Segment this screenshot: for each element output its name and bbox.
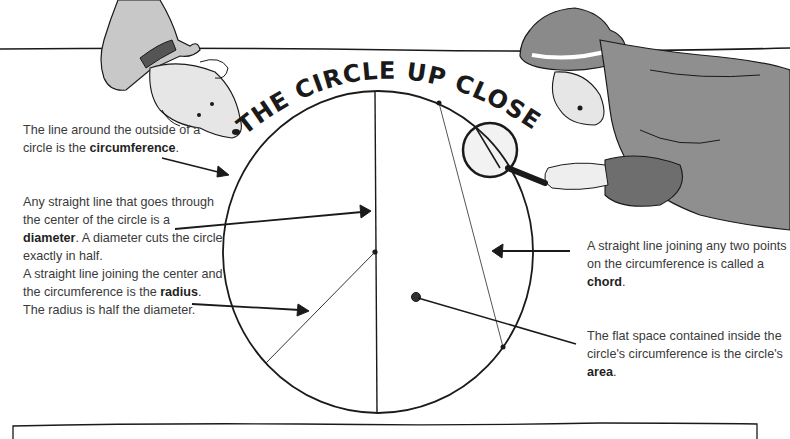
label-radius: A straight line joining the center and t… [23,265,223,319]
term-radius: radius [160,285,198,299]
detective-illustration [520,8,790,230]
label-circumference: The line around the outside of a circle … [23,121,223,157]
term-area: area [587,365,613,379]
circumference-arrow [162,158,222,173]
label-area: The flat space contained inside the circ… [587,327,787,381]
term-diameter: diameter [23,231,76,245]
area-pointer-line [418,298,576,344]
radius-line [265,252,375,364]
term-circumference: circumference [90,141,176,155]
dog-illustration [101,0,241,138]
bottom-box [13,423,757,439]
area-point [412,293,421,302]
term-chord: chord [587,275,622,289]
label-diameter: Any straight line that goes through the … [23,193,223,265]
label-chord: A straight line joining any two points o… [587,237,787,291]
